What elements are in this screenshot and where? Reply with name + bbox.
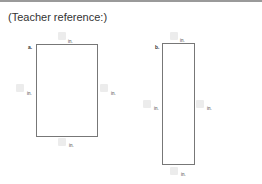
page-title: (Teacher reference:) [8,11,107,23]
unit-top-b: in. [180,38,185,43]
rectangle-b [162,43,195,165]
unit-right-b: in. [207,106,212,111]
blank-left-b[interactable] [143,100,151,108]
unit-right-a: in. [111,91,116,96]
blank-top-b[interactable] [170,32,178,40]
blank-left-a[interactable] [16,84,24,92]
blank-bottom-a[interactable] [58,138,66,146]
rectangle-a [36,44,98,137]
blank-top-a[interactable] [58,32,66,40]
unit-top-a: in. [68,39,73,44]
top-border [0,0,262,2]
figure-a-label: a. [28,44,32,50]
blank-right-a[interactable] [100,84,108,92]
unit-left-a: in. [27,91,32,96]
blank-bottom-b[interactable] [170,167,178,175]
unit-bottom-a: in. [69,143,74,148]
figure-b-label: b. [155,44,159,50]
unit-left-b: in. [154,106,159,111]
blank-right-b[interactable] [196,100,204,108]
unit-bottom-b: in. [181,172,186,177]
